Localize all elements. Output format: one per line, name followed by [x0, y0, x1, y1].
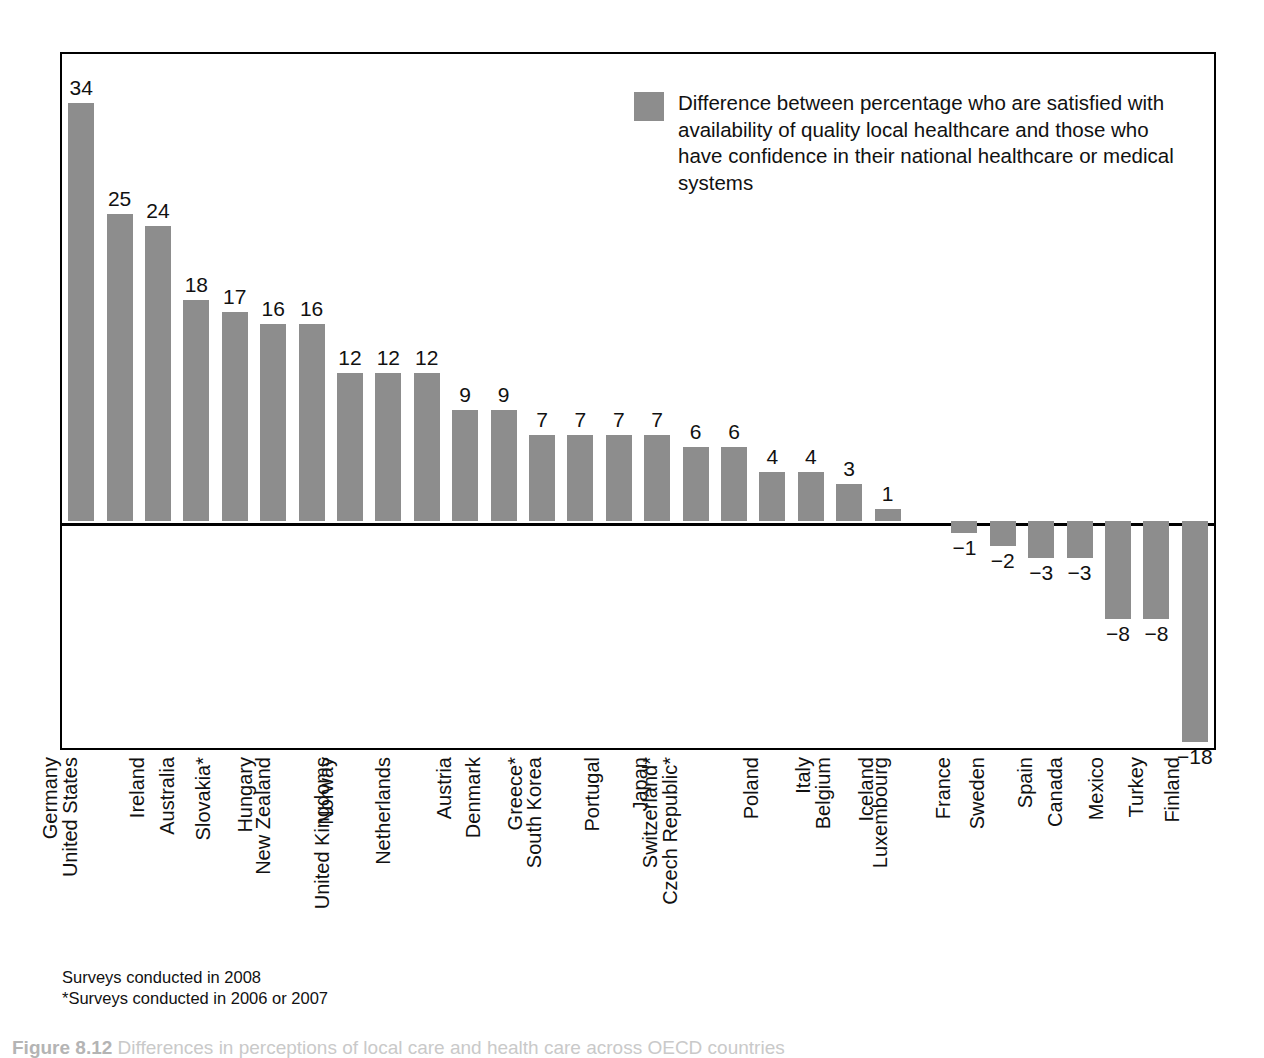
- category-label-slot: Poland: [753, 757, 791, 962]
- bar-rect: [875, 509, 901, 521]
- bar-value-label: 12: [415, 347, 438, 368]
- category-label: United Kingdoms: [312, 757, 332, 909]
- bar-value-label: 3: [843, 458, 855, 479]
- category-label: Switzerland*: [640, 757, 660, 868]
- figure-page: 34252418171616121212997777664431−1−2−3−3…: [0, 0, 1264, 1058]
- bar-value-label: −8: [1106, 623, 1130, 644]
- bar-value-label: −3: [1029, 562, 1053, 583]
- category-label: Italy: [792, 757, 812, 794]
- bar-rect: [337, 373, 363, 521]
- bar-value-label: −1: [952, 537, 976, 558]
- category-label: Slovakia*: [193, 757, 213, 840]
- bar-rect: [1182, 521, 1208, 742]
- bar-austria: 9: [446, 54, 484, 748]
- bar-hungary: 16: [254, 54, 292, 748]
- bar-germany: 34: [62, 54, 100, 748]
- category-label: Canada: [1045, 757, 1065, 827]
- bar-value-label: 17: [223, 286, 246, 307]
- bar-value-label: 1: [882, 483, 894, 504]
- bar-portugal: 7: [600, 54, 638, 748]
- category-label: Austria: [434, 757, 454, 819]
- category-label: Luxembourg: [870, 757, 890, 868]
- bar-value-label: 9: [498, 384, 510, 405]
- bar-rect: [798, 472, 824, 521]
- bar-rect: [452, 410, 478, 521]
- bar-value-label: 16: [300, 298, 323, 319]
- bar-value-label: −3: [1068, 562, 1092, 583]
- category-label: Turkey: [1126, 757, 1146, 817]
- bar-rect: [145, 226, 171, 521]
- bar-rect: [644, 435, 670, 521]
- category-label: Mexico: [1086, 757, 1106, 820]
- figure-number: Figure 8.12: [12, 1037, 112, 1058]
- bar-value-label: 12: [377, 347, 400, 368]
- bar-value-label: 18: [185, 274, 208, 295]
- category-label: Australia: [157, 757, 177, 835]
- bar-rect: [491, 410, 517, 521]
- legend-swatch: [634, 92, 664, 121]
- bar-rect: [260, 324, 286, 521]
- bar-rect: [567, 435, 593, 521]
- category-label: France: [933, 757, 953, 819]
- bar-value-label: 4: [805, 446, 817, 467]
- bar-united-kingdoms: 12: [369, 54, 407, 748]
- footnote-line-2: *Surveys conducted in 2006 or 2007: [62, 988, 328, 1009]
- category-label: Ireland: [127, 757, 147, 818]
- bar-rect: [606, 435, 632, 521]
- category-label: Denmark: [463, 757, 483, 838]
- category-label-slot: Norway: [331, 757, 369, 962]
- bar-rect: [107, 214, 133, 522]
- bar-slovakia: 17: [216, 54, 254, 748]
- bar-united-states: 25: [100, 54, 138, 748]
- bar-rect: [1067, 521, 1093, 558]
- category-label: Sweden: [967, 757, 987, 829]
- bar-value-label: 6: [690, 421, 702, 442]
- bar-value-label: 34: [70, 77, 93, 98]
- bar-rect: [414, 373, 440, 521]
- legend-label: Difference between percentage who are sa…: [678, 90, 1178, 196]
- figure-caption-text: Differences in perceptions of local care…: [118, 1037, 785, 1058]
- footnotes: Surveys conducted in 2008 *Surveys condu…: [62, 967, 328, 1009]
- figure-caption: Figure 8.12 Differences in perceptions o…: [12, 1036, 1252, 1058]
- bar-rect: [721, 447, 747, 521]
- category-label: Finland: [1162, 757, 1182, 823]
- bar-rect: [529, 435, 555, 521]
- bar-value-label: −2: [991, 550, 1015, 571]
- category-label: Poland: [741, 757, 761, 819]
- category-label: Czech Republic*: [660, 757, 680, 905]
- bar-value-label: 7: [651, 409, 663, 430]
- bar-rect: [1105, 521, 1131, 619]
- category-axis-labels: GermanyUnited StatesIrelandAustraliaSlov…: [62, 757, 1214, 962]
- footnote-line-1: Surveys conducted in 2008: [62, 967, 328, 988]
- category-label: Germany: [40, 757, 60, 839]
- bar-value-label: 7: [536, 409, 548, 430]
- bar-denmark: 9: [484, 54, 522, 748]
- bar-rect: [1028, 521, 1054, 558]
- chart-legend: Difference between percentage who are sa…: [634, 90, 1178, 196]
- bar-value-label: 6: [728, 421, 740, 442]
- bar-value-label: 7: [575, 409, 587, 430]
- category-label: Spain: [1016, 757, 1036, 808]
- bar-ireland: 24: [139, 54, 177, 748]
- bar-rect: [183, 300, 209, 521]
- bar-rect: [951, 521, 977, 533]
- bar-rect: [1143, 521, 1169, 619]
- bar-value-label: 25: [108, 188, 131, 209]
- bar-rect: [683, 447, 709, 521]
- bar-finland: −18: [1176, 54, 1214, 748]
- bar-rect: [990, 521, 1016, 546]
- bar-value-label: 16: [262, 298, 285, 319]
- bar-greece: 7: [523, 54, 561, 748]
- category-label: South Korea: [525, 757, 545, 868]
- bar-value-label: 4: [767, 446, 779, 467]
- bar-rect: [759, 472, 785, 521]
- bar-value-label: 12: [338, 347, 361, 368]
- bar-rect: [375, 373, 401, 521]
- category-label: New Zealand: [253, 757, 273, 875]
- category-label: Greece*: [505, 757, 525, 830]
- bar-norway: 12: [331, 54, 369, 748]
- category-label: United States: [60, 757, 80, 877]
- bar-value-label: 9: [459, 384, 471, 405]
- bar-rect: [836, 484, 862, 521]
- category-label-slot: Finland: [1176, 757, 1214, 962]
